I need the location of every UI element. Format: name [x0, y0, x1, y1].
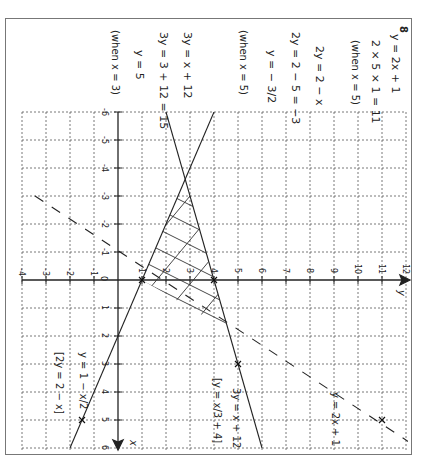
- svg-text:10: 10: [353, 264, 362, 274]
- svg-text:-3: -3: [100, 192, 109, 200]
- svg-text:1: 1: [100, 305, 109, 310]
- svg-text:2: 2: [100, 333, 109, 338]
- svg-text:-2: -2: [65, 268, 74, 276]
- svg-text:y = − 3/2: y = − 3/2: [265, 50, 278, 103]
- svg-text:6: 6: [257, 268, 266, 273]
- svg-text:-4: -4: [100, 164, 109, 172]
- working-block-3: 3y = x + 12 3y = 3 + 12 = 15 y = 5 (when…: [110, 30, 194, 129]
- svg-text:-5: -5: [100, 136, 109, 144]
- working-block-1: y = 2x + 1 2 × 5 × 1 = 11 (when x = 5): [350, 34, 402, 124]
- page-number: 8: [398, 26, 409, 33]
- svg-text:2y = 2 − x: 2y = 2 − x: [313, 46, 326, 106]
- label-2y-2-minus-x: [2y = 2 − x]: [54, 352, 65, 414]
- svg-text:0: 0: [99, 276, 108, 281]
- svg-text:(when x = 3): (when x = 3): [110, 30, 121, 95]
- label-y-x-over-3-plus-4: [y = x/3 + 4]: [212, 378, 223, 443]
- svg-text:-1: -1: [100, 248, 109, 256]
- svg-text:4: 4: [100, 389, 109, 394]
- svg-text:-4: -4: [17, 268, 26, 276]
- svg-text:-2: -2: [100, 220, 109, 228]
- svg-text:7: 7: [281, 268, 290, 273]
- svg-text:3y = 3 + 12 = 15: 3y = 3 + 12 = 15: [157, 32, 170, 129]
- svg-text:2y = 2 − 5 = −3: 2y = 2 − 5 = −3: [289, 32, 302, 124]
- svg-text:3y = x + 12: 3y = x + 12: [181, 32, 194, 98]
- svg-text:y = 2x + 1: y = 2x + 1: [389, 34, 402, 93]
- svg-text:(when x = 5): (when x = 5): [350, 40, 361, 105]
- svg-text:3: 3: [100, 361, 109, 366]
- svg-text:y = 5: y = 5: [133, 50, 146, 80]
- svg-text:-1: -1: [89, 268, 98, 276]
- graph-canvas: -4 -3 -2 -1 0 1 2 3 4 5 6 7 8 9 10 11 12…: [0, 0, 424, 462]
- svg-text:-3: -3: [41, 268, 50, 276]
- x-axis-arrow-icon: [113, 440, 123, 450]
- working-block-2: 2y = 2 − x 2y = 2 − 5 = −3 y = − 3/2 (wh…: [238, 30, 326, 124]
- svg-text:-6: -6: [100, 108, 109, 116]
- svg-text:(when x = 5): (when x = 5): [238, 30, 249, 95]
- svg-text:11: 11: [377, 264, 386, 274]
- line-annotations: y = 2x + 1 3y = x + 12 [y = x/3 + 4] y =…: [54, 352, 341, 448]
- svg-text:2 × 5 × 1 = 11: 2 × 5 × 1 = 11: [369, 40, 382, 124]
- svg-text:1: 1: [137, 268, 146, 273]
- y-axis-label: y: [396, 289, 407, 297]
- x-axis-label: x: [128, 439, 139, 446]
- svg-text:8: 8: [305, 268, 314, 273]
- shaded-region: [120, 160, 280, 340]
- svg-text:6: 6: [100, 445, 109, 450]
- svg-text:9: 9: [329, 268, 338, 273]
- svg-text:12: 12: [401, 264, 410, 274]
- label-y-1-minus-x-over-2: y = 1 − x/2: [78, 352, 89, 409]
- label-3y-x-plus-12: 3y = x + 12: [231, 388, 242, 448]
- y-axis-arrow-icon: [400, 275, 410, 285]
- label-y-2x-plus-1: y = 2x + 1: [330, 392, 341, 446]
- svg-text:3: 3: [185, 268, 194, 273]
- svg-text:5: 5: [100, 417, 109, 422]
- svg-text:5: 5: [233, 268, 242, 273]
